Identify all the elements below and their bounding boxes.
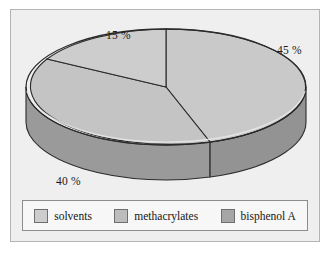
legend-item-methacrylates: methacrylates <box>114 209 198 223</box>
legend-label-methacrylates: methacrylates <box>134 210 198 222</box>
slice-label-bisphenol-a: 45 % <box>277 44 302 56</box>
slice-label-solvents: 15 % <box>106 29 131 41</box>
legend-swatch-solvents <box>34 209 48 223</box>
pie-plot-area: 15 % 45 % 40 % <box>11 10 321 196</box>
legend-item-solvents: solvents <box>34 209 92 223</box>
legend-label-solvents: solvents <box>54 210 92 222</box>
legend-item-bisphenol-a: bisphenol A <box>221 209 296 223</box>
pie-3d-graphic <box>11 10 321 196</box>
slice-label-methacrylates: 40 % <box>56 175 81 187</box>
legend-swatch-methacrylates <box>114 209 128 223</box>
pie-chart-figure: 15 % 45 % 40 % solvents methacrylates bi… <box>0 0 331 258</box>
legend-swatch-bisphenol-a <box>221 209 235 223</box>
chart-legend: solvents methacrylates bisphenol A <box>22 200 308 231</box>
legend-label-bisphenol-a: bisphenol A <box>241 210 296 222</box>
chart-panel: 15 % 45 % 40 % solvents methacrylates bi… <box>10 9 320 242</box>
